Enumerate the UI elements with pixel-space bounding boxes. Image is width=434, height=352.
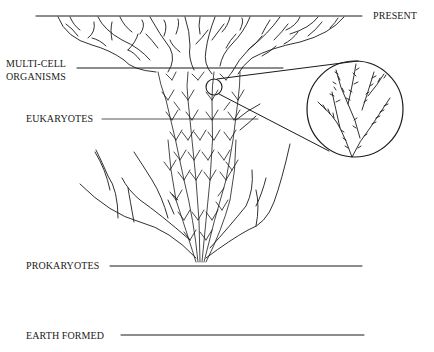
label-multicell-line2: ORGANISMS	[6, 71, 66, 82]
label-prokaryotes: PROKARYOTES	[26, 260, 99, 271]
magnify-tangent-top	[217, 61, 358, 79]
label-present: PRESENT	[373, 10, 417, 21]
magnify-source-circle	[206, 79, 222, 95]
label-earth-formed: EARTH FORMED	[26, 330, 104, 341]
evolution-tree-diagram	[0, 0, 434, 352]
side-branches	[80, 104, 290, 258]
label-multicell-line1: MULTI-CELL	[6, 58, 66, 69]
label-eukaryotes: EUKARYOTES	[26, 113, 93, 124]
canopy-branches	[58, 17, 344, 74]
inset-branches	[318, 64, 390, 157]
